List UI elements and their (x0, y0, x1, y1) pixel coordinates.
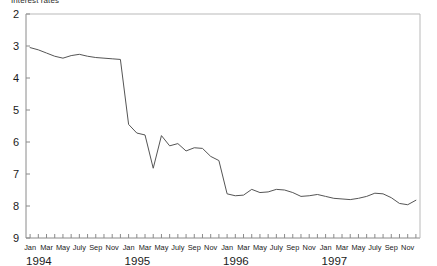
year-label: 1994 (26, 255, 52, 266)
y-tick-label: 5 (13, 104, 19, 116)
x-tick-label: Sep (188, 243, 201, 252)
x-tick-label: Sep (385, 243, 398, 252)
x-tick-label: Jan (24, 243, 36, 252)
y-tick-label: 7 (13, 168, 19, 180)
y-tick-label: 8 (13, 200, 19, 212)
x-tick-label: Jan (320, 243, 332, 252)
x-tick-label: July (73, 243, 86, 252)
line-chart-plot: 23456789 JanMarMayJulySepNovJanMarMayJul… (0, 0, 437, 266)
x-tick-label: May (253, 243, 267, 252)
plot-frame (26, 14, 420, 238)
x-tick-label: Mar (336, 243, 349, 252)
y-tick-label: 3 (13, 40, 19, 52)
x-tick-label: Jan (221, 243, 233, 252)
chart-title: Interest rates (11, 0, 59, 5)
x-tick-label: May (154, 243, 168, 252)
x-tick-label: Sep (89, 243, 102, 252)
x-tick-label: Nov (401, 243, 414, 252)
x-tick-label: May (351, 243, 365, 252)
x-tick-label: Nov (106, 243, 119, 252)
x-tick-label: July (368, 243, 381, 252)
x-axis-label-group: JanMarMayJulySepNovJanMarMayJulySepNovJa… (24, 243, 414, 252)
x-tick-label: July (171, 243, 184, 252)
x-tick-label: Mar (139, 243, 152, 252)
year-label: 1997 (322, 255, 348, 266)
x-tick-label: Mar (40, 243, 53, 252)
year-label: 1996 (223, 255, 249, 266)
x-tick-label: July (270, 243, 283, 252)
plot-background (26, 14, 420, 238)
year-label-group: 1994199519961997 (26, 255, 347, 266)
y-tick-label: 9 (13, 232, 19, 244)
x-tick-label: Nov (204, 243, 217, 252)
chart-figure: Interest rates 23456789 JanMarMayJulySep… (0, 0, 437, 266)
x-tick-label: Mar (237, 243, 250, 252)
year-label: 1995 (125, 255, 151, 266)
y-tick-label: 4 (13, 72, 19, 84)
x-tick-label: May (56, 243, 70, 252)
x-tick-label: Sep (286, 243, 299, 252)
y-tick-label: 2 (13, 8, 19, 20)
y-tick-label: 6 (13, 136, 19, 148)
x-tick-label: Jan (123, 243, 135, 252)
x-tick-label: Nov (303, 243, 316, 252)
